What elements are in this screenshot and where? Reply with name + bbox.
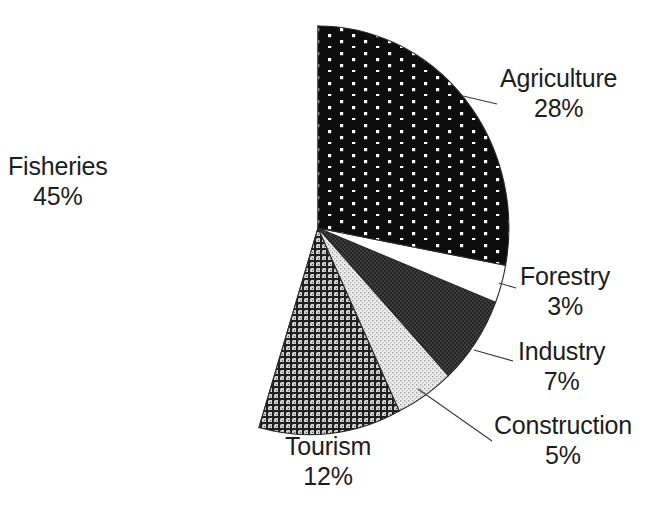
slice-label-industry-value: 7% [518,367,605,397]
leader-line-industry [474,350,513,361]
slice-label-forestry: Forestry 3% [520,262,610,321]
slice-label-forestry-name: Forestry [520,262,610,292]
pie-chart: Agriculture 28% Forestry 3% Industry 7% … [0,0,651,510]
slice-label-fisheries: Fisheries 45% [8,152,108,211]
slice-label-industry-name: Industry [518,337,605,367]
slice-label-fisheries-name: Fisheries [8,152,108,182]
leader-line-construction [418,389,492,441]
slice-label-agriculture: Agriculture 28% [500,64,617,123]
slice-label-forestry-value: 3% [520,292,610,322]
slice-label-industry: Industry 7% [518,337,605,396]
pie-slice-agriculture[interactable] [318,26,509,265]
slice-label-construction: Construction 5% [494,411,632,470]
slice-label-tourism: Tourism 12% [285,432,371,491]
slice-label-tourism-name: Tourism [285,432,371,462]
slice-label-tourism-value: 12% [285,462,371,492]
slice-label-fisheries-value: 45% [8,182,108,212]
slice-label-construction-value: 5% [494,441,632,471]
slice-label-construction-name: Construction [494,411,632,441]
pie-slices [259,26,509,435]
slice-label-agriculture-name: Agriculture [500,64,617,94]
slice-label-agriculture-value: 28% [500,94,617,124]
